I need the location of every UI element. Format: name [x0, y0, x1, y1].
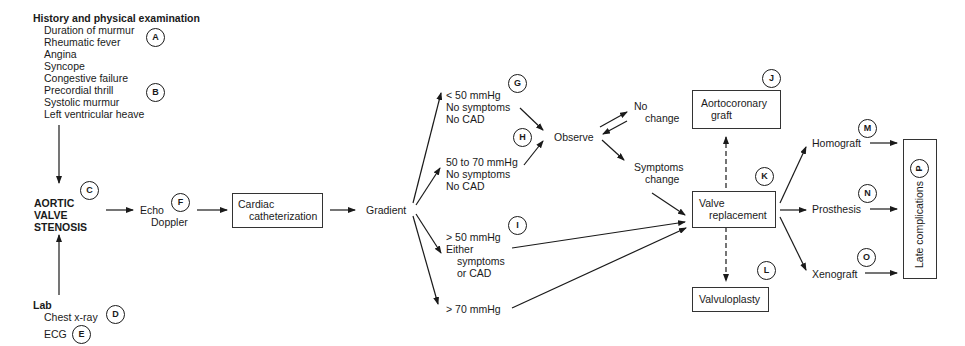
- history-item: Duration of murmur: [44, 24, 134, 36]
- label-k: K: [755, 167, 774, 186]
- late-complications-label: Late complications: [913, 181, 925, 268]
- branch-70-text: > 70 mmHg: [446, 303, 501, 315]
- gradient-label: Gradient: [366, 204, 406, 216]
- label-a: A: [146, 28, 165, 47]
- valve-replacement-label: Valve: [699, 197, 725, 209]
- label-d: D: [106, 305, 125, 324]
- branch-i-text: symptoms: [457, 255, 505, 267]
- symptoms-change-label: Symptoms: [634, 161, 684, 173]
- valve-replacement-box: Valve replacement: [692, 191, 776, 228]
- label-c: C: [80, 181, 99, 200]
- lab-item: Chest x-ray: [44, 311, 98, 323]
- history-item: Angina: [44, 48, 77, 60]
- label-g: G: [508, 74, 527, 93]
- history-item: Left ventricular heave: [44, 108, 144, 120]
- label-j: J: [762, 69, 781, 88]
- option-xenograft: Xenograft: [812, 268, 858, 280]
- branch-i-text: or CAD: [457, 267, 491, 279]
- history-item: Precordial thrill: [44, 84, 113, 96]
- history-item: Congestive failure: [44, 72, 128, 84]
- graft-label: Aortocoronary: [701, 97, 767, 109]
- valve-replacement-label: replacement: [709, 209, 767, 221]
- branch-g-text: No symptoms: [446, 101, 510, 113]
- valvuloplasty-box: Valvuloplasty: [692, 287, 769, 312]
- echo-label: Echo: [140, 204, 164, 216]
- branch-g-text: < 50 mmHg: [446, 89, 501, 101]
- label-e: E: [72, 325, 91, 344]
- branch-h-text: No CAD: [446, 180, 485, 192]
- cath-box: Cardiac catheterization: [232, 193, 323, 228]
- branch-i-text: > 50 mmHg: [446, 231, 501, 243]
- label-i: I: [508, 216, 527, 235]
- lab-item: ECG: [44, 328, 67, 340]
- no-change-label: change: [645, 112, 679, 124]
- label-n: N: [858, 184, 877, 203]
- no-change-label: No: [634, 100, 647, 112]
- doppler-label: Doppler: [151, 216, 188, 228]
- branch-i-text: Either: [446, 243, 473, 255]
- lab-title: Lab: [33, 299, 52, 311]
- graft-label: graft: [711, 109, 732, 121]
- history-title: History and physical examination: [33, 12, 200, 24]
- symptoms-change-label: change: [645, 173, 679, 185]
- label-f: F: [171, 193, 190, 212]
- valvuloplasty-label: Valvuloplasty: [699, 293, 760, 305]
- graft-box: Aortocoronary graft: [692, 90, 781, 129]
- branch-g-text: No CAD: [446, 113, 485, 125]
- diagnosis-line: STENOSIS: [34, 221, 87, 233]
- cath-label: Cardiac: [238, 198, 274, 210]
- label-m: M: [858, 119, 877, 138]
- option-homograft: Homograft: [812, 137, 861, 149]
- late-complications-box: Late complications P: [903, 139, 937, 279]
- option-prosthesis: Prosthesis: [812, 203, 861, 215]
- label-o: O: [857, 248, 876, 267]
- label-b: B: [146, 83, 165, 102]
- diagnosis-line: VALVE: [34, 209, 67, 221]
- cath-label: catheterization: [249, 210, 317, 222]
- label-l: L: [757, 261, 776, 280]
- branch-h-text: 50 to 70 mmHg: [446, 156, 518, 168]
- history-item: Syncope: [44, 60, 85, 72]
- label-h: H: [513, 128, 532, 147]
- label-p: P: [910, 159, 929, 178]
- observe-label: Observe: [554, 131, 594, 143]
- history-item: Rheumatic fever: [44, 36, 120, 48]
- branch-h-text: No symptoms: [446, 168, 510, 180]
- diagnosis-line: AORTIC: [34, 197, 74, 209]
- history-item: Systolic murmur: [44, 96, 119, 108]
